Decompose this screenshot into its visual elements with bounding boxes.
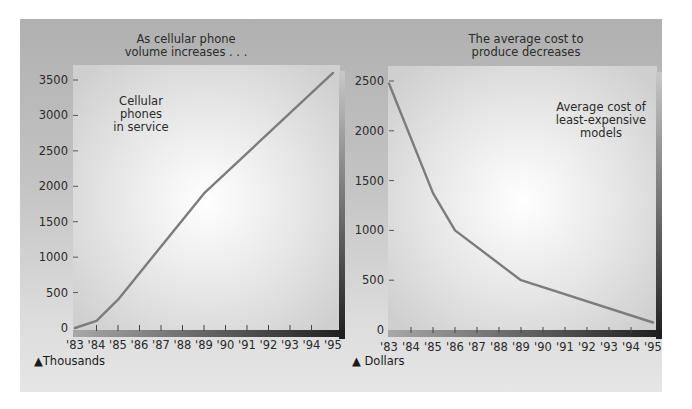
- x-tick-label: '83: [66, 338, 84, 352]
- y-tick-label: 1000: [355, 223, 384, 237]
- x-tick-label: '90: [534, 340, 552, 354]
- right-chart: The average cost toproduce decreases0500…: [352, 32, 662, 368]
- unit-label: ▲ Dollars: [352, 354, 405, 368]
- x-tick-label: '87: [152, 338, 170, 352]
- series-annotation: Cellularphonesin service: [113, 94, 168, 134]
- x-tick-label: '90: [217, 338, 235, 352]
- x-tick-label: '89: [195, 338, 213, 352]
- plot-base-floor: [388, 330, 662, 337]
- x-tick-label: '88: [174, 338, 192, 352]
- charts-svg: As cellular phonevolume increases . . .0…: [0, 0, 692, 409]
- x-tick-label: '92: [260, 338, 278, 352]
- series-annotation-line: in service: [113, 120, 168, 134]
- x-tick-label: '88: [490, 340, 508, 354]
- x-tick-label: '95: [324, 338, 342, 352]
- chart-title: The average cost toproduce decreases: [468, 32, 584, 59]
- plot-side-wall: [656, 72, 662, 339]
- series-annotation-line: models: [580, 126, 622, 140]
- x-tick-label: '86: [446, 340, 464, 354]
- x-tick-label: '85: [424, 340, 442, 354]
- x-tick-label: '92: [578, 340, 596, 354]
- y-tick-label: 2000: [39, 179, 68, 193]
- left-chart: As cellular phonevolume increases . . .0…: [34, 32, 345, 368]
- series-annotation-line: phones: [120, 107, 162, 121]
- x-tick-label: '85: [109, 338, 127, 352]
- x-tick-label: '94: [622, 340, 640, 354]
- y-tick-label: 2500: [39, 144, 68, 158]
- series-annotation-line: Cellular: [119, 94, 163, 108]
- x-tick-label: '84: [402, 340, 420, 354]
- y-tick-label: 500: [362, 273, 384, 287]
- x-tick-label: '86: [131, 338, 149, 352]
- x-tick-label: '83: [380, 340, 398, 354]
- y-tick-label: 3500: [39, 73, 68, 87]
- x-tick-label: '95: [644, 340, 662, 354]
- y-tick-label: 2500: [355, 74, 384, 88]
- y-tick-label: 0: [61, 321, 68, 335]
- y-tick-label: 1500: [39, 215, 68, 229]
- x-tick-label: '91: [238, 338, 256, 352]
- x-tick-label: '93: [600, 340, 618, 354]
- x-tick-label: '93: [281, 338, 299, 352]
- plot-side-wall: [339, 71, 345, 339]
- y-tick-label: 2000: [355, 124, 384, 138]
- series-annotation-line: Average cost of: [556, 100, 646, 114]
- chart-title-line: As cellular phone: [136, 32, 235, 46]
- x-tick-label: '91: [556, 340, 574, 354]
- plot-area: [73, 65, 340, 335]
- x-tick-label: '87: [468, 340, 486, 354]
- y-tick-label: 1000: [39, 250, 68, 264]
- series-annotation-line: least-expensive: [556, 113, 646, 127]
- y-tick-label: 3000: [39, 108, 68, 122]
- y-tick-label: 1500: [355, 174, 384, 188]
- chart-title: As cellular phonevolume increases . . .: [125, 32, 248, 59]
- chart-title-line: The average cost to: [468, 32, 584, 46]
- chart-title-line: produce decreases: [472, 45, 581, 59]
- x-tick-label: '89: [512, 340, 530, 354]
- unit-label: ▲Thousands: [34, 354, 105, 368]
- chart-title-line: volume increases . . .: [125, 45, 248, 59]
- y-tick-label: 0: [377, 323, 384, 337]
- y-tick-label: 500: [46, 286, 68, 300]
- x-tick-label: '94: [303, 338, 321, 352]
- x-tick-label: '84: [88, 338, 106, 352]
- plot-base-floor: [73, 330, 345, 337]
